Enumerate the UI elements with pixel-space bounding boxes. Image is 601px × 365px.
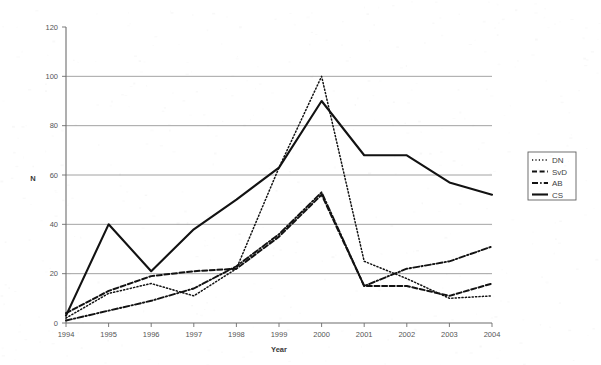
y-tick-label: 100 — [45, 72, 58, 81]
x-tick-label: 2003 — [441, 330, 458, 339]
y-tick-label: 40 — [50, 220, 58, 229]
x-tick-label: 1997 — [185, 330, 202, 339]
legend-label-dn: DN — [552, 156, 564, 165]
y-tick-label: 60 — [50, 171, 58, 180]
x-tick-label: 2004 — [484, 330, 501, 339]
x-tick-label: 1998 — [228, 330, 245, 339]
x-tick-label: 2001 — [356, 330, 373, 339]
legend-label-ab: AB — [552, 179, 563, 188]
legend-label-svd: SvD — [552, 168, 567, 177]
x-tick-label: 1999 — [271, 330, 288, 339]
y-tick-label: 0 — [54, 319, 58, 328]
x-tick-label: 1996 — [143, 330, 160, 339]
chart-figure: 020406080100120 199419951996199719981999… — [0, 0, 601, 365]
x-axis-title: Year — [271, 345, 287, 354]
legend: DNSvDABCS — [528, 152, 576, 200]
y-tick-label: 80 — [50, 121, 58, 130]
y-tick-label: 120 — [45, 23, 58, 32]
x-tick-label: 2000 — [313, 330, 330, 339]
x-tick-label: 1995 — [100, 330, 117, 339]
x-tick-label: 2002 — [398, 330, 415, 339]
x-tick-label: 1994 — [58, 330, 75, 339]
legend-label-cs: CS — [552, 191, 563, 200]
chart-background — [0, 0, 601, 365]
y-axis-title: N — [30, 174, 35, 183]
y-tick-label: 20 — [50, 269, 58, 278]
line-chart: 020406080100120 199419951996199719981999… — [0, 0, 601, 365]
